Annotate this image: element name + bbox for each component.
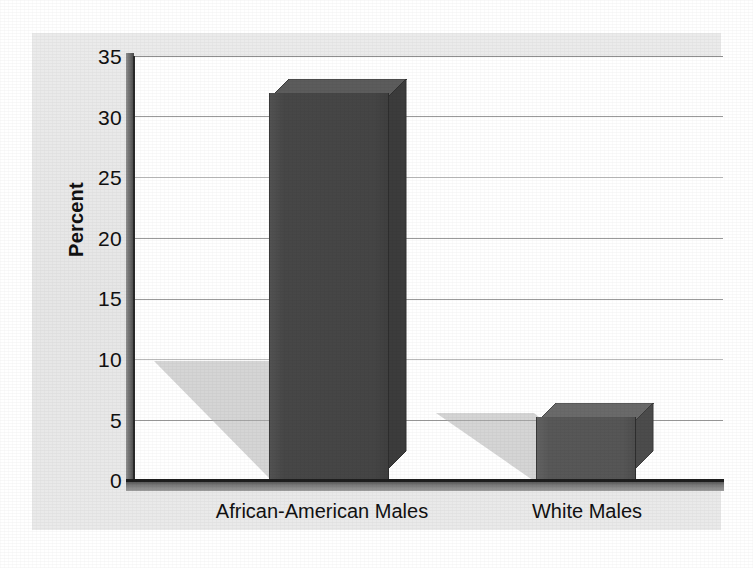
bar-side-face [386,79,408,471]
bar-side-face [633,403,655,471]
x-axis-3d-floor [126,482,724,491]
bar-white-males[interactable] [536,417,634,481]
bar-african-american-males[interactable] [269,93,387,481]
scanned-page: 35 30 25 20 15 10 5 0 Percent [0,0,753,568]
y-axis-line [133,56,135,482]
bar-front-face [536,417,636,481]
plot-area [133,56,723,481]
x-axis-line [126,479,724,482]
gridline-25 [133,177,723,178]
gridline-35 [133,56,723,57]
y-tick-label: 0 [62,470,122,491]
y-axis-title: Percent [65,160,88,280]
y-tick-label: 30 [62,107,122,128]
x-tick-label-white-males: White Males [487,500,687,523]
y-tick-label: 15 [62,288,122,309]
y-axis-tick-labels: 35 30 25 20 15 10 5 0 [56,33,122,530]
gridline-20 [133,238,723,239]
x-tick-label-african-american-males: African-American Males [172,500,472,523]
chart-panel: 35 30 25 20 15 10 5 0 Percent [32,33,721,530]
gridline-30 [133,116,723,117]
y-tick-label: 35 [62,46,122,67]
gridline-10 [133,359,723,360]
y-tick-label: 10 [62,349,122,370]
bar-front-face [269,93,389,481]
gridline-15 [133,299,723,300]
y-tick-label: 5 [62,410,122,431]
